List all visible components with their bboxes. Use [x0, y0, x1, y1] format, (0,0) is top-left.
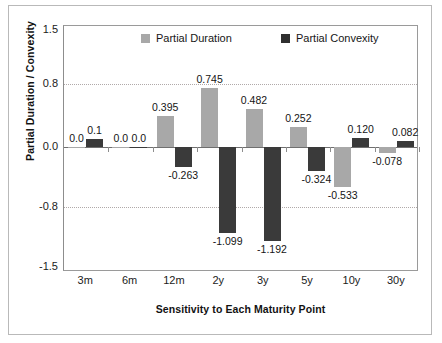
- data-label: 0.0: [132, 132, 147, 144]
- bar-partial-duration: [157, 116, 174, 147]
- x-tick-label: 3y: [257, 274, 269, 286]
- bar-partial-convexity: [130, 147, 147, 148]
- data-label: 0.252: [285, 112, 311, 124]
- x-tick-label: 6m: [122, 274, 137, 286]
- y-axis-tick-labels: 1.50.80.0-0.8-1.5: [24, 0, 58, 343]
- bar-partial-convexity: [175, 147, 192, 167]
- bar-partial-duration: [290, 127, 307, 147]
- bar-group: [197, 26, 241, 270]
- chart-figure: Partial Duration / Convexity 1.50.80.0-0…: [0, 0, 442, 343]
- y-tick-label: -0.8: [24, 200, 58, 212]
- bar-group: [242, 26, 286, 270]
- convexity-swatch: [281, 34, 290, 43]
- plot-area: 0.00.10.00.00.395-0.2630.745-1.0990.482-…: [63, 25, 418, 271]
- bar-group: [64, 26, 108, 270]
- data-label: 0.0: [69, 132, 84, 144]
- chart-legend: Partial DurationPartial Convexity: [63, 32, 418, 48]
- bar-partial-duration: [112, 147, 129, 148]
- data-label: -0.324: [301, 173, 331, 185]
- x-axis-tick-labels: 3m6m12m2y3y5y10y30y: [63, 274, 418, 292]
- bar-partial-convexity: [264, 147, 281, 241]
- y-tick-label: 1.5: [24, 23, 58, 35]
- x-tick-label: 2y: [213, 274, 225, 286]
- legend-label: Partial Convexity: [296, 32, 379, 44]
- data-label: -0.263: [168, 169, 198, 181]
- data-label: 0.395: [152, 101, 178, 113]
- y-tick-label: 0.0: [24, 140, 58, 152]
- bar-partial-convexity: [308, 147, 325, 171]
- bar-group: [375, 26, 419, 270]
- data-label: -1.192: [257, 243, 287, 255]
- bar-partial-duration: [246, 109, 263, 147]
- x-tick-label: 5y: [301, 274, 313, 286]
- x-tick-mark: [419, 147, 420, 152]
- bar-partial-duration: [334, 147, 351, 187]
- bar-group: [108, 26, 152, 270]
- data-label: -0.533: [328, 189, 358, 201]
- x-tick-label: 30y: [387, 274, 405, 286]
- bar-partial-convexity: [86, 139, 103, 147]
- bar-group: [330, 26, 374, 270]
- bar-group: [153, 26, 197, 270]
- bar-partial-duration: [68, 147, 85, 148]
- data-label: 0.0: [114, 132, 129, 144]
- bar-partial-convexity: [397, 141, 414, 147]
- bar-partial-convexity: [219, 147, 236, 233]
- bar-group: [286, 26, 330, 270]
- legend-item: Partial Convexity: [281, 32, 379, 44]
- data-label: 0.1: [87, 124, 102, 136]
- data-label: 0.482: [241, 94, 267, 106]
- x-tick-label: 10y: [343, 274, 361, 286]
- data-label: -0.078: [372, 155, 402, 167]
- duration-swatch: [141, 34, 150, 43]
- bar-partial-duration: [379, 147, 396, 153]
- data-label: 0.120: [348, 123, 374, 135]
- y-tick-label: -1.5: [24, 260, 58, 272]
- y-tick-label: 0.8: [24, 77, 58, 89]
- bar-partial-convexity: [352, 138, 369, 147]
- data-label: 0.082: [392, 126, 418, 138]
- legend-item: Partial Duration: [141, 32, 232, 44]
- x-tick-label: 3m: [78, 274, 93, 286]
- data-label: -1.099: [213, 235, 243, 247]
- x-tick-label: 12m: [163, 274, 184, 286]
- data-label: 0.745: [196, 73, 222, 85]
- legend-label: Partial Duration: [156, 32, 232, 44]
- x-axis-title: Sensitivity to Each Maturity Point: [63, 303, 418, 315]
- bar-partial-duration: [201, 88, 218, 147]
